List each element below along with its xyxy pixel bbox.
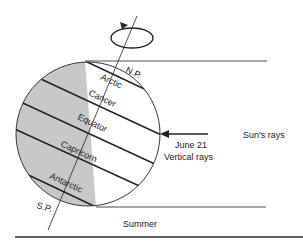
night-side-shading [0,40,96,230]
date-label: June 21 [175,140,207,150]
earth-summer-diagram: N.P. Arctic Cancer Equator Capricorn Ant… [0,0,303,244]
sun-rays-label: Sun's rays [243,130,285,140]
rotation-arrow-icon [111,28,153,48]
cancer-label: Cancer [87,88,118,109]
arrowhead-icon [160,130,169,138]
arctic-label: Arctic [99,72,124,91]
vertical-rays-label: Vertical rays [164,152,214,162]
south-pole-label: S.P. [35,200,53,214]
season-label: Summer [123,219,157,229]
